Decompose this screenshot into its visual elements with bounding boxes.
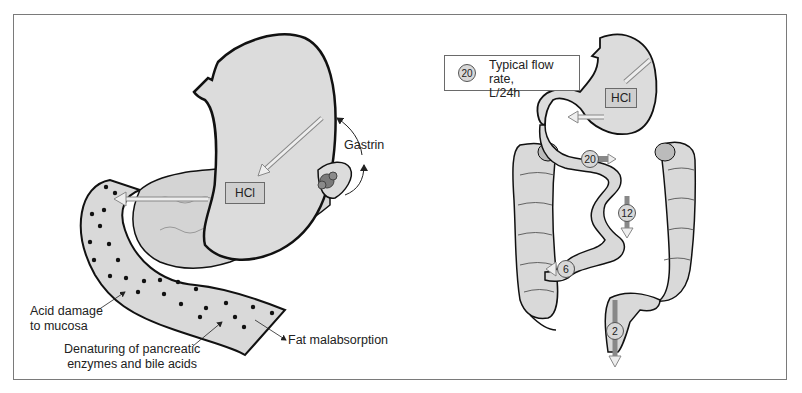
illustration: [0, 0, 802, 393]
annotation-line: Denaturing of pancreatic: [64, 342, 200, 357]
flow-badge-ileocecal: 6: [557, 260, 575, 278]
gastrin-label: Gastrin: [344, 138, 384, 153]
flow-badge-rectum: 2: [606, 322, 624, 340]
annotation-fat-malabsorption: Fat malabsorption: [288, 333, 388, 348]
annotation-line: to mucosa: [30, 319, 103, 334]
legend-badge: 20: [458, 64, 476, 82]
legend-text: Typical flow rate, L/24h: [489, 58, 579, 100]
stomach-shape: [194, 34, 336, 259]
hcl-box-right: HCl: [605, 88, 637, 108]
annotation-denaturing: Denaturing of pancreatic enzymes and bil…: [64, 342, 200, 372]
flow-badge-duodenum: 20: [581, 150, 599, 168]
legend-line: Typical flow rate,: [489, 58, 579, 86]
legend-line: L/24h: [489, 86, 579, 100]
annotation-line: Acid damage: [30, 304, 103, 319]
hcl-box: HCl: [225, 182, 265, 204]
annotation-acid-damage: Acid damage to mucosa: [30, 304, 103, 334]
ascending-colon: [513, 143, 558, 330]
flow-rate-legend: 20 Typical flow rate, L/24h: [444, 55, 580, 91]
flow-badge-jejunum: 12: [618, 204, 636, 222]
annotation-line: enzymes and bile acids: [64, 357, 200, 372]
gastrinoma-icon: [318, 162, 351, 198]
